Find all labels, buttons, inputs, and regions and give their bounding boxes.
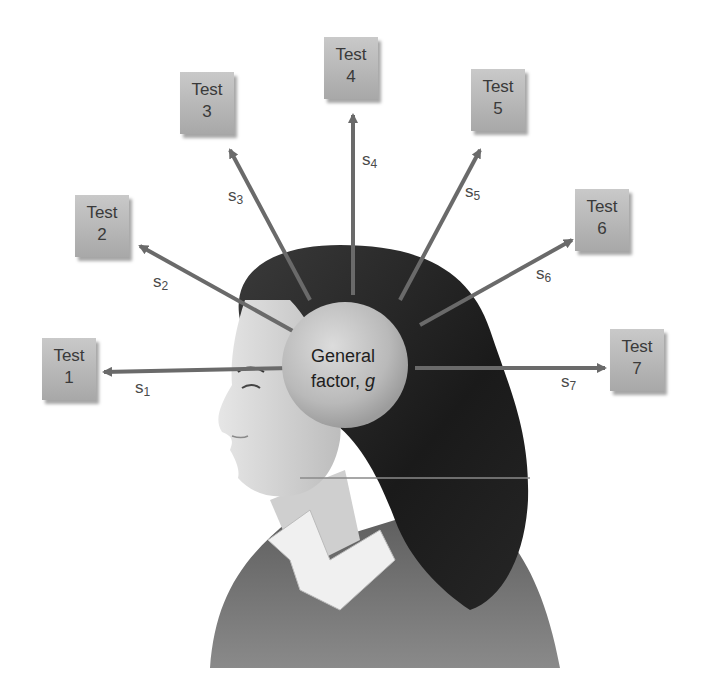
g-factor-diagram: General factor, g Test 1 Test 2 Test 3 T… (0, 0, 711, 690)
test-box-1: Test 1 (42, 338, 96, 400)
specific-factor-s1: s1 (135, 378, 150, 399)
general-factor-label: General factor, g (283, 344, 403, 394)
test-word: Test (324, 44, 378, 66)
specific-factor-s2: s2 (153, 272, 168, 293)
specific-factor-s5: s5 (465, 182, 480, 203)
test-number: 4 (324, 66, 378, 88)
test-box-2: Test 2 (75, 195, 129, 257)
test-box-3: Test 3 (180, 72, 234, 134)
specific-factor-s3: s3 (228, 186, 243, 207)
test-number: 5 (471, 98, 525, 120)
test-number: 3 (180, 101, 234, 123)
g-symbol: g (365, 371, 375, 391)
test-number: 7 (610, 358, 664, 380)
specific-factor-s4: s4 (362, 150, 377, 171)
test-number: 6 (575, 218, 629, 240)
test-box-4: Test 4 (324, 37, 378, 99)
specific-factor-s6: s6 (536, 264, 551, 285)
specific-factor-s7: s7 (561, 372, 576, 393)
test-box-6: Test 6 (575, 189, 629, 251)
test-word: Test (75, 202, 129, 224)
test-word: Test (471, 76, 525, 98)
test-number: 2 (75, 224, 129, 246)
test-word: Test (180, 79, 234, 101)
test-word: Test (610, 336, 664, 358)
test-box-5: Test 5 (471, 69, 525, 131)
test-box-7: Test 7 (610, 329, 664, 391)
factor-text: factor, (311, 371, 360, 391)
test-number: 1 (42, 367, 96, 389)
test-word: Test (42, 345, 96, 367)
test-word: Test (575, 196, 629, 218)
general-text: General (311, 346, 375, 366)
